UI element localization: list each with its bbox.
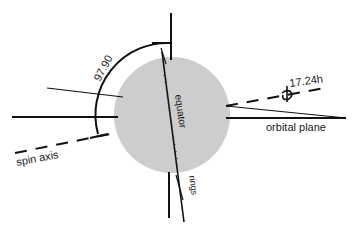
spin-axis-tick: [90, 134, 108, 138]
angle-label: 97.90: [91, 53, 115, 83]
rings-label: rings: [187, 175, 200, 196]
orbital-plane-label: orbital plane: [266, 121, 326, 133]
spin-axis-line-right: [226, 88, 325, 106]
uranus-axial-tilt-diagram: 97.90 17.24h orbital plane spin axis equ…: [0, 0, 358, 227]
rotation-period-label: 17.24h: [289, 72, 324, 89]
orbital-plane-convergence-line: [226, 106, 346, 118]
planet-disc: [114, 57, 230, 173]
reference-line-left: [47, 88, 123, 97]
ring-edge-bottom: [176, 175, 183, 200]
